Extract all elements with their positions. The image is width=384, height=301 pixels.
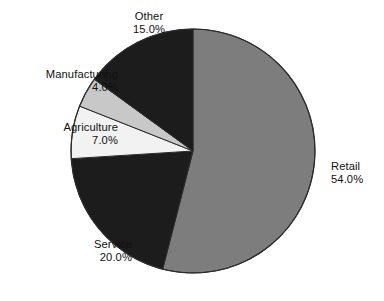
pie-chart: Other 15.0% Manufacturing 4.0% Agricultu… [0,0,384,301]
pie-label-service-value: 20.0% [48,251,132,264]
pie-label-agriculture: Agriculture 7.0% [10,121,118,147]
pie-label-manufacturing-value: 4.0% [10,81,118,94]
pie-label-manufacturing: Manufacturing 4.0% [10,68,118,94]
pie-label-service-name: Service [48,238,132,251]
pie-label-retail-name: Retail [331,160,383,173]
pie-label-other-value: 15.0% [112,23,186,36]
pie-label-service: Service 20.0% [48,238,132,264]
pie-label-other: Other 15.0% [112,10,186,36]
pie-label-manufacturing-name: Manufacturing [10,68,118,81]
pie-label-other-name: Other [112,10,186,23]
pie-label-retail: Retail 54.0% [331,160,383,186]
pie-label-agriculture-name: Agriculture [10,121,118,134]
pie-slice-group [71,29,315,273]
pie-label-retail-value: 54.0% [331,173,383,186]
pie-label-agriculture-value: 7.0% [10,134,118,147]
